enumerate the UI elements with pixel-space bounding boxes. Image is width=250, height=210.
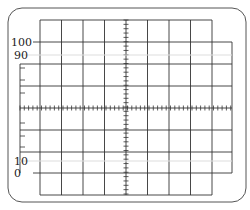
label-10: 10: [14, 156, 28, 167]
oscilloscope-graticule: 100 90 10 0: [0, 0, 250, 210]
label-90: 90: [14, 50, 28, 61]
graticule-svg: [0, 0, 250, 210]
label-100: 100: [11, 37, 32, 48]
tick-marks: [20, 20, 231, 194]
label-0: 0: [14, 168, 21, 179]
